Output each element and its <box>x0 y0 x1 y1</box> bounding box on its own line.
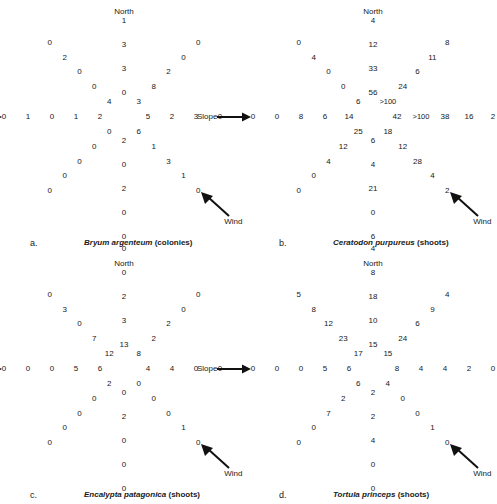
value-b-W-4: 0 <box>275 113 279 121</box>
value-b-SW-5: 0 <box>297 187 301 195</box>
slope-arrow-d <box>217 364 251 374</box>
panel-letter-d: d. <box>279 490 287 500</box>
value-c-N-4: 0 <box>122 269 126 277</box>
panel-a: North Slope Wind 03310382005230161310202… <box>0 0 248 252</box>
panel-letter-a: a. <box>30 238 38 248</box>
value-c-SE-3: 0 <box>166 410 170 418</box>
value-b-SE-3: 28 <box>413 158 422 166</box>
value-b-SE-4: 4 <box>430 172 434 180</box>
value-a-E-2: 2 <box>170 113 174 121</box>
value-a-N-1: 0 <box>122 89 126 97</box>
north-label-b: North <box>363 8 383 16</box>
value-b-S-1: 6 <box>371 137 375 145</box>
value-d-E-4: 2 <box>467 365 471 373</box>
rose-plot-b: North Slope Wind 56331244>10024611842>10… <box>249 0 497 215</box>
value-d-N-5: 4 <box>371 245 375 253</box>
value-c-NE-1: 8 <box>137 350 141 358</box>
value-d-SW-2: 2 <box>341 395 345 403</box>
value-a-SW-4: 0 <box>62 172 66 180</box>
value-c-S-3: 0 <box>122 437 126 445</box>
value-c-N-5: 0 <box>122 245 126 253</box>
value-c-N-1: 13 <box>120 341 129 349</box>
value-b-N-5: 4 <box>371 0 375 1</box>
value-d-NW-4: 8 <box>311 306 315 314</box>
value-d-E-2: 4 <box>419 365 423 373</box>
panel-letter-b: b. <box>279 238 287 248</box>
value-d-SE-1: 4 <box>386 380 390 388</box>
value-c-NE-4: 0 <box>181 306 185 314</box>
value-a-SE-3: 3 <box>166 158 170 166</box>
value-c-N-2: 3 <box>122 317 126 325</box>
value-d-SE-4: 1 <box>430 424 434 432</box>
value-a-W-4: 1 <box>26 113 30 121</box>
value-a-NW-2: 0 <box>92 83 96 91</box>
value-a-S-3: 2 <box>122 185 126 193</box>
value-d-NE-4: 9 <box>430 306 434 314</box>
panel-title-c: Encalypta patagonica (shoots) <box>84 490 200 500</box>
value-b-E-4: 16 <box>465 113 474 121</box>
value-d-NE-2: 24 <box>398 335 407 343</box>
value-d-W-3: 0 <box>299 365 303 373</box>
value-a-NE-3: 2 <box>166 68 170 76</box>
rose-plot-a: North Slope Wind 03310382005230161310202… <box>0 0 248 215</box>
value-a-W-5: 0 <box>2 113 6 121</box>
species-unit-d: (shoots) <box>398 490 430 499</box>
value-d-S-1: 2 <box>371 389 375 397</box>
value-d-E-3: 4 <box>443 365 447 373</box>
value-b-E-3: 38 <box>441 113 450 121</box>
value-d-N-3: 18 <box>369 293 378 301</box>
value-d-S-4: 0 <box>371 461 375 469</box>
value-a-NW-1: 4 <box>107 98 111 106</box>
panel-b: North Slope Wind 56331244>10024611842>10… <box>249 0 497 252</box>
species-unit-b: (shoots) <box>417 238 449 247</box>
value-b-NW-3: 0 <box>326 68 330 76</box>
value-d-N-1: 15 <box>369 341 378 349</box>
species-name-d: Tortula princeps <box>333 490 395 499</box>
value-a-S-4: 0 <box>122 209 126 217</box>
value-c-S-4: 0 <box>122 461 126 469</box>
value-d-NW-3: 12 <box>324 320 333 328</box>
value-c-W-5: 0 <box>2 365 6 373</box>
value-d-W-1: 6 <box>347 365 351 373</box>
value-a-S-2: 0 <box>122 161 126 169</box>
slope-label-b: Slope <box>197 113 217 121</box>
value-d-W-4: 0 <box>275 365 279 373</box>
panel-title-b: Ceratodon purpureus (shoots) <box>333 238 449 248</box>
rose-plot-d: North Slope Wind 15101884152469484420400… <box>249 252 497 467</box>
value-b-N-2: 33 <box>369 65 378 73</box>
value-c-NW-2: 7 <box>92 335 96 343</box>
value-b-SW-3: 4 <box>326 158 330 166</box>
value-d-SE-3: 0 <box>415 410 419 418</box>
species-name-a: Bryum argenteum <box>84 238 152 247</box>
value-d-SW-5: 0 <box>297 439 301 447</box>
value-b-N-3: 12 <box>369 41 378 49</box>
value-d-NW-5: 5 <box>297 291 301 299</box>
value-a-S-1: 2 <box>122 137 126 145</box>
value-c-NE-2: 2 <box>151 335 155 343</box>
value-a-NE-2: 8 <box>151 83 155 91</box>
value-a-NE-1: 3 <box>137 98 141 106</box>
value-c-N-3: 2 <box>122 293 126 301</box>
wind-label-c: Wind <box>224 470 242 478</box>
slope-label-d: Slope <box>197 365 217 373</box>
panel-c: North Slope Wind 13320082200440000001002… <box>0 252 248 504</box>
value-d-SW-3: 7 <box>326 410 330 418</box>
value-d-W-5: 0 <box>251 365 255 373</box>
value-b-W-1: 14 <box>345 113 354 121</box>
wind-arrow-d <box>450 444 480 470</box>
wind-arrow-a <box>201 192 231 218</box>
value-b-NE-5: 8 <box>445 39 449 47</box>
value-a-N-4: 1 <box>122 17 126 25</box>
value-b-W-2: 6 <box>323 113 327 121</box>
value-b-NE-2: 24 <box>398 83 407 91</box>
value-a-SE-1: 6 <box>137 128 141 136</box>
value-d-SW-4: 0 <box>311 424 315 432</box>
value-a-SW-5: 0 <box>48 187 52 195</box>
value-d-SE-2: 0 <box>400 395 404 403</box>
value-a-NE-4: 0 <box>181 54 185 62</box>
value-c-SW-5: 0 <box>48 439 52 447</box>
value-c-SW-4: 0 <box>62 424 66 432</box>
value-b-SE-1: 18 <box>383 128 392 136</box>
value-a-W-2: 1 <box>74 113 78 121</box>
slope-arrow-b <box>217 112 251 122</box>
